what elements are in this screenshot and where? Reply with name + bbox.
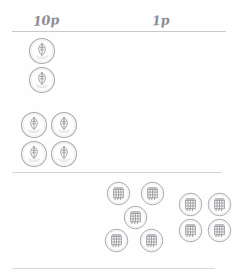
coin-1p[interactable] [207,218,232,243]
coin-10p[interactable] [20,111,48,139]
worksheet-sheet: 10p 1p [0,0,241,277]
coin-10p[interactable] [50,111,78,139]
coin-10p[interactable] [28,37,56,65]
coin-1p[interactable] [139,228,164,253]
coin-10p[interactable] [20,140,48,168]
coin-1p[interactable] [207,192,232,217]
coin-1p[interactable] [106,181,131,206]
coin-1p[interactable] [123,205,148,230]
coin-10p[interactable] [28,66,56,94]
column-header-1p: 1p [151,12,169,28]
middle-rule [12,172,222,173]
header-rule [12,31,226,32]
coin-1p[interactable] [104,228,129,253]
coin-10p[interactable] [50,140,78,168]
coin-1p[interactable] [140,181,165,206]
coin-1p[interactable] [178,192,203,217]
column-header-10p: 10p [33,12,60,29]
bottom-rule [12,268,215,269]
coin-1p[interactable] [178,218,203,243]
